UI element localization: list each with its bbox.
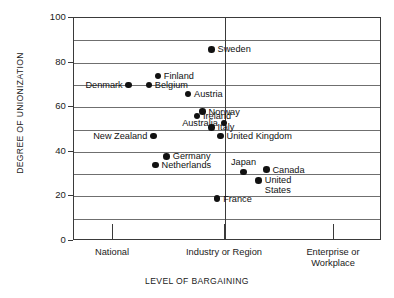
data-point-italy[interactable]	[208, 124, 215, 131]
data-point-label-line: Belgium	[155, 80, 188, 90]
data-point-germany[interactable]	[163, 153, 170, 160]
data-point-canada[interactable]	[263, 166, 270, 173]
data-point-label: Austria	[194, 89, 223, 99]
plot-area: SwedenDenmarkFinlandBelgiumAustriaNorway…	[73, 17, 381, 240]
data-point-label: Japan	[231, 157, 256, 167]
x-tick-label-line: Workplace	[273, 258, 393, 269]
data-point-label-line: United Kingdom	[227, 131, 292, 141]
data-point-label: UnitedStates	[265, 175, 292, 195]
data-point-label-line: Netherlands	[162, 160, 212, 170]
data-point-label: Belgium	[155, 80, 188, 90]
gridline	[74, 152, 380, 153]
data-point-austria[interactable]	[185, 91, 192, 98]
x-tick-label: Enterprise orWorkplace	[273, 247, 393, 269]
data-point-label: Canada	[272, 165, 304, 175]
data-point-united-states[interactable]	[255, 177, 262, 184]
data-point-united-kingdom[interactable]	[217, 133, 224, 140]
data-point-label-line: Japan	[231, 157, 256, 167]
data-point-label-line: Austria	[194, 89, 223, 99]
x-tick-label-line: Industry or Region	[164, 247, 284, 258]
data-point-denmark[interactable]	[125, 82, 132, 89]
y-tick-label: 40	[36, 146, 66, 156]
x-tick-label: National	[52, 247, 172, 258]
x-tick-mark	[333, 224, 334, 240]
data-point-label: Ireland	[203, 111, 231, 121]
unionization-scatter-chart: DEGREE OF UNIONIZATION 020406080100 Swed…	[0, 0, 394, 298]
data-point-label-line: States	[265, 185, 292, 195]
gridline	[74, 219, 380, 220]
data-point-label: Denmark	[85, 80, 122, 90]
y-tick-label: 80	[36, 57, 66, 67]
y-tick-mark	[68, 240, 73, 241]
x-tick-mark	[224, 224, 225, 240]
data-point-label-line: France	[223, 194, 252, 204]
y-tick-label: 100	[36, 12, 66, 22]
x-tick-mark	[112, 224, 113, 240]
gridline	[74, 63, 380, 64]
data-point-label: Netherlands	[162, 160, 212, 170]
data-point-belgium[interactable]	[146, 82, 153, 89]
data-point-new-zealand[interactable]	[150, 133, 157, 140]
data-point-label: Sweden	[218, 44, 251, 54]
data-point-france[interactable]	[214, 195, 221, 202]
data-point-label-line: New Zealand	[93, 131, 147, 141]
y-tick-label: 20	[36, 190, 66, 200]
x-tick-label: Industry or Region	[164, 247, 284, 258]
data-point-label: France	[223, 194, 252, 204]
y-axis-title: DEGREE OF UNIONIZATION	[15, 33, 25, 193]
data-point-label-line: United	[265, 175, 292, 185]
data-point-label: New Zealand	[93, 131, 147, 141]
gridline	[74, 40, 380, 41]
x-axis-title: LEVEL OF BARGAINING	[0, 276, 394, 286]
data-point-netherlands[interactable]	[152, 162, 159, 169]
data-point-label: United Kingdom	[227, 131, 292, 141]
data-point-sweden[interactable]	[208, 46, 215, 53]
data-point-finland[interactable]	[155, 73, 162, 80]
data-point-label-line: Sweden	[218, 44, 251, 54]
data-point-label-line: Canada	[272, 165, 304, 175]
x-tick-label-line: National	[52, 247, 172, 258]
y-tick-label: 60	[36, 101, 66, 111]
data-point-label-line: Denmark	[85, 80, 122, 90]
x-tick-label-line: Enterprise or	[273, 247, 393, 258]
y-tick-label: 0	[36, 235, 66, 245]
data-point-japan[interactable]	[240, 169, 247, 176]
data-point-label-line: Ireland	[203, 111, 231, 121]
gridline	[74, 174, 380, 175]
